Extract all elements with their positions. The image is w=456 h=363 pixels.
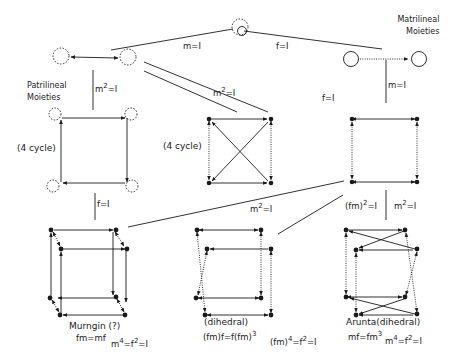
edge-label-right-m2: m2=I [394, 200, 416, 211]
label-rest: =I [367, 201, 377, 211]
rel-exp: 3 [378, 330, 382, 338]
eq-part: =I [412, 336, 422, 346]
label-rest: =I [263, 204, 273, 214]
left-four-cycle [47, 108, 138, 192]
rel-part: (fm)f=f(fm) [203, 332, 252, 342]
eq-part: =f [124, 339, 134, 349]
dihedral-equation: (fm)4=f2=I [270, 336, 317, 347]
kinship-group-diagram [0, 0, 456, 363]
title-line: Moieties [27, 92, 67, 104]
dihedral-relation: (fm)f=f(fm)3 [203, 331, 256, 342]
matrilineal-moieties-title: Matrilineal Moieties [396, 14, 439, 38]
edge-label-fm2: (fm)2=I [345, 200, 377, 211]
murngin-name: Murngin (?) [69, 322, 120, 331]
right-square [352, 119, 417, 182]
edge-label-left-f: f=I [97, 200, 110, 209]
label-rest: =I [108, 84, 118, 94]
edge-label-top-f: f=I [276, 42, 289, 51]
edge-label-left-m2: m2=I [95, 83, 117, 94]
label-rest: =I [407, 201, 417, 211]
eq-part: =I [307, 337, 317, 347]
arunta-name: Arunta(dihedral) [346, 318, 420, 327]
edge-label-mid-f: f=I [322, 94, 335, 103]
dihedral-name: (dihedral) [204, 318, 248, 327]
edge-label-mid-m2: m2=I [213, 87, 235, 98]
murngin-equation: m4=f2=I [111, 338, 148, 349]
eq-part: (fm) [270, 337, 288, 347]
eq-part: =f [292, 337, 302, 347]
label-base: (fm) [345, 201, 363, 211]
edge-label-right-m: m=I [388, 81, 406, 90]
cycle-label-mid: (4 cycle) [163, 142, 202, 151]
edge-label-top-m: m=I [183, 42, 201, 51]
cycle-label-left: (4 cycle) [17, 144, 56, 153]
murngin-relation: fm=mf [76, 334, 106, 343]
title-line: Matrilineal [396, 14, 439, 26]
rel-exp: 3 [252, 330, 256, 338]
eq-part: =I [138, 339, 148, 349]
title-line: Patrilineal [27, 80, 67, 92]
patrilineal-moieties-node [53, 48, 136, 65]
title-line: Moieties [396, 26, 439, 38]
hierarchy-edges [93, 29, 386, 234]
rel-part: mf=fm [348, 332, 378, 342]
edge-label-low-m2: m2=I [250, 203, 272, 214]
arunta-cube [346, 230, 417, 315]
label-rest: =I [226, 88, 236, 98]
murngin-cube [51, 230, 126, 315]
dihedral-cube [197, 230, 271, 315]
patrilineal-moieties-title: Patrilineal Moieties [27, 80, 67, 104]
matrilineal-moieties-node [344, 52, 427, 67]
eq-part: =f [398, 336, 408, 346]
middle-four-cycle [209, 119, 271, 183]
arunta-equation: m4=f2=I [385, 335, 422, 346]
arunta-relation: mf=fm3 [348, 331, 382, 342]
top-center-node [232, 19, 248, 36]
